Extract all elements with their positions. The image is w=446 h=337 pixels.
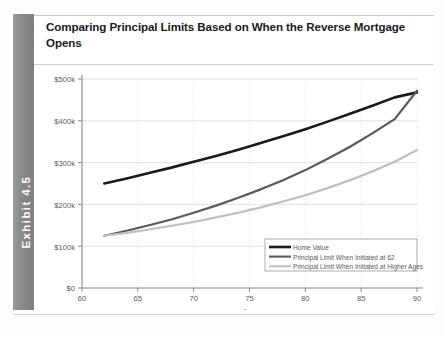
x-axis-label: Age: [242, 308, 257, 310]
x-axis-tick-label: 70: [189, 294, 197, 303]
divider-top: [34, 15, 434, 16]
x-axis-title: Age: [242, 308, 257, 310]
legend-label-3: Principal Limit When Initiated at Higher…: [293, 263, 424, 271]
page-title: Comparing Principal Limits Based on When…: [46, 19, 406, 50]
chart-legend[interactable]: Home ValuePrincipal Limit When Initiated…: [265, 239, 424, 271]
series-line-1: [104, 92, 417, 183]
x-axis-tick-label: 80: [301, 294, 309, 303]
scanned-page: Exhibit 4.5 Comparing Principal Limits B…: [0, 0, 446, 337]
exhibit-tab-label: Exhibit 4.5: [20, 44, 32, 253]
y-axis-tick-label: $0: [67, 284, 75, 293]
y-axis-tick-label: $400k: [54, 117, 75, 126]
divider-under-title: [34, 64, 434, 65]
legend-label-1: Home Value: [293, 244, 329, 251]
x-axis-tick-label: 65: [134, 294, 142, 303]
y-axis-tick-label: $500k: [54, 75, 75, 84]
chart-plot-area: $0$100k$200k$300k$400k$500k 606570758085…: [34, 66, 434, 310]
y-axis-tick-label: $100k: [54, 243, 75, 252]
y-axis-tick-label: $200k: [54, 201, 75, 210]
series-line-2: [104, 91, 417, 236]
exhibit-tab: Exhibit 4.5: [13, 14, 34, 310]
x-axis-tick-label: 60: [78, 294, 86, 303]
y-axis-tick-labels: $0$100k$200k$300k$400k$500k: [54, 75, 75, 293]
x-axis-tick-label: 85: [357, 294, 365, 303]
x-axis-tick-labels: 60657075808590: [78, 294, 421, 303]
x-axis-tick-label: 75: [245, 294, 253, 303]
x-axis-tick-label: 90: [413, 294, 421, 303]
data-series: [104, 91, 417, 236]
legend-label-2: Principal Limit When Initiated at 62: [293, 254, 395, 262]
line-chart: $0$100k$200k$300k$400k$500k 606570758085…: [34, 66, 434, 310]
y-axis-tick-label: $300k: [54, 159, 75, 168]
divider-bottom: [14, 314, 434, 315]
